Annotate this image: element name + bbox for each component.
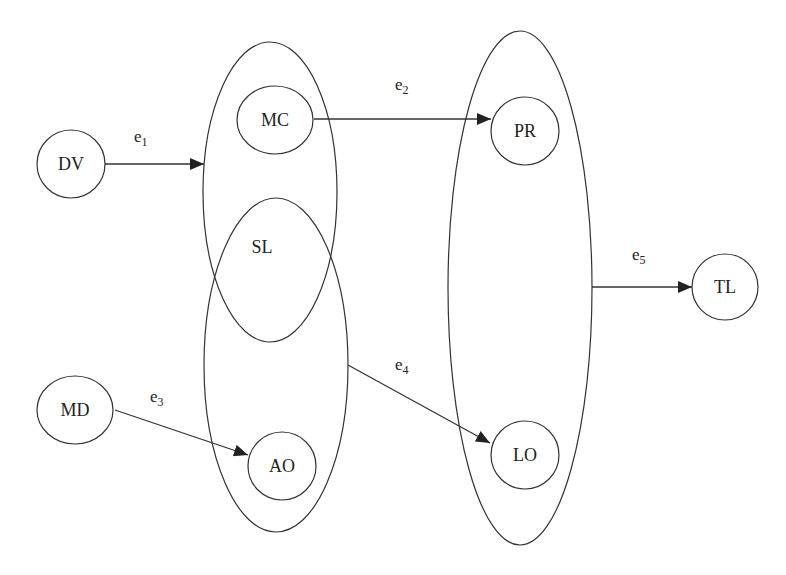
- node-label: MC: [261, 110, 289, 130]
- node-tl: TL: [692, 254, 758, 320]
- node-label: MD: [60, 400, 89, 420]
- svg-text:e3: e3: [150, 387, 164, 409]
- node-mc: MC: [237, 86, 313, 154]
- svg-text:e2: e2: [395, 75, 409, 97]
- edge-label-e5: e5: [632, 245, 646, 267]
- svg-text:e1: e1: [134, 127, 148, 149]
- lower-group-ellipse: [204, 198, 348, 532]
- node-label: DV: [58, 154, 84, 174]
- node-label: LO: [513, 445, 537, 465]
- edge-label-e1: e1: [134, 127, 148, 149]
- node-md: MD: [37, 376, 113, 444]
- upper-group-ellipse: [203, 42, 337, 342]
- node-label: PR: [514, 121, 536, 141]
- edge-e4: [348, 365, 490, 443]
- node-dv: DV: [37, 130, 105, 198]
- node-lo: LO: [491, 421, 559, 489]
- node-label: AO: [269, 456, 295, 476]
- node-ao: AO: [248, 432, 316, 500]
- group-label-sl: SL: [251, 237, 272, 257]
- svg-text:e4: e4: [395, 355, 409, 377]
- diagram-canvas: DV MC MD AO PR LO TL SL e1 e2 e3 e4: [0, 0, 786, 575]
- edge-label-e3: e3: [150, 387, 164, 409]
- edge-label-e2: e2: [395, 75, 409, 97]
- edge-e3: [115, 410, 248, 455]
- right-group-ellipse: [448, 31, 592, 545]
- node-pr: PR: [491, 97, 559, 165]
- svg-text:e5: e5: [632, 245, 646, 267]
- edge-label-e4: e4: [395, 355, 409, 377]
- node-label: TL: [714, 277, 736, 297]
